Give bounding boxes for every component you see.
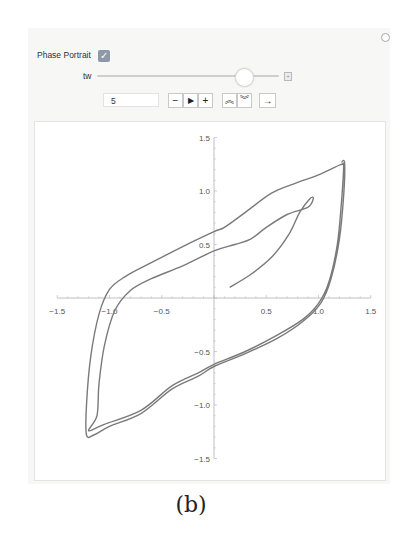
svg-text:−0.5: −0.5 bbox=[154, 307, 170, 316]
svg-text:−1.5: −1.5 bbox=[194, 455, 210, 464]
phase-portrait-chart: −1.5−1.0−0.50.51.01.51.51.00.5−0.5−1.0−1… bbox=[0, 0, 420, 544]
svg-text:1.5: 1.5 bbox=[365, 307, 377, 316]
svg-text:0.5: 0.5 bbox=[261, 307, 273, 316]
svg-text:0.5: 0.5 bbox=[199, 241, 211, 250]
svg-text:−1.0: −1.0 bbox=[194, 401, 210, 410]
svg-text:1.0: 1.0 bbox=[199, 187, 211, 196]
svg-text:−0.5: −0.5 bbox=[194, 348, 210, 357]
figure-caption: (b) bbox=[0, 492, 382, 517]
axes: −1.5−1.0−0.50.51.01.51.51.00.5−0.5−1.0−1… bbox=[49, 134, 377, 464]
svg-text:−1.5: −1.5 bbox=[49, 307, 65, 316]
svg-text:1.5: 1.5 bbox=[199, 134, 211, 143]
